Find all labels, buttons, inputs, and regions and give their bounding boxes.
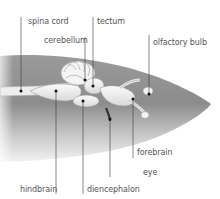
label-cerebellum: cerebellum xyxy=(44,36,88,46)
diencephalon-shape xyxy=(73,95,99,107)
label-spinal-cord: spina cord xyxy=(28,17,69,27)
label-hindbrain: hindbrain xyxy=(20,185,57,195)
fish-brain-diagram: spina cord tectum cerebellum olfactory b… xyxy=(0,0,220,199)
label-diencephalon: diencephalon xyxy=(87,185,140,195)
label-forebrain: forebrain xyxy=(137,148,172,158)
label-olfactory-bulb: olfactory bulb xyxy=(153,38,207,48)
diagram-artwork xyxy=(0,0,220,199)
label-tectum: tectum xyxy=(97,17,125,27)
olfactory-bulb-lower-shape xyxy=(141,112,149,119)
label-eye: eye xyxy=(143,168,157,178)
